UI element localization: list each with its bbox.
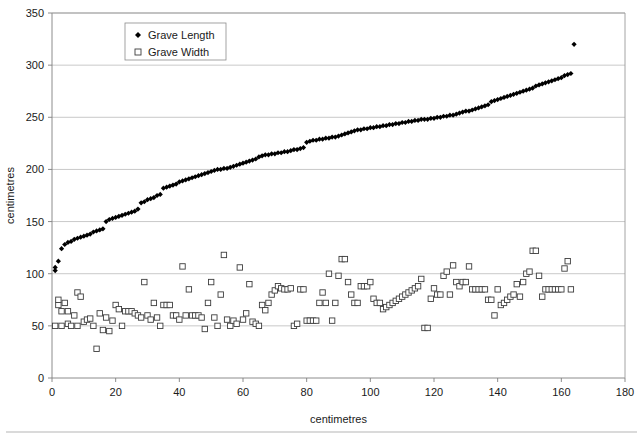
data-point-grave-width (355, 300, 360, 305)
data-point-grave-width (377, 300, 382, 305)
data-point-grave-width (224, 317, 229, 322)
data-point-grave-length (53, 265, 58, 270)
data-point-grave-width (97, 311, 102, 316)
data-point-grave-width (186, 287, 191, 292)
data-point-grave-width (495, 287, 500, 292)
data-point-grave-width (288, 286, 293, 291)
x-tick-label: 180 (616, 386, 634, 398)
data-point-grave-width (540, 294, 545, 299)
data-point-grave-width (59, 323, 64, 328)
data-point-grave-width (489, 297, 494, 302)
x-tick-label: 160 (552, 386, 570, 398)
data-point-grave-width (256, 323, 261, 328)
data-point-grave-width (294, 321, 299, 326)
y-axis-title: centimetres (4, 167, 16, 224)
chart-canvas: 050100150200250300350 020406080100120140… (0, 0, 643, 439)
data-point-grave-width (78, 294, 83, 299)
data-point-grave-width (565, 259, 570, 264)
series-grave-length (53, 42, 577, 273)
y-tick-label: 0 (38, 372, 44, 384)
data-point-grave-width (559, 287, 564, 292)
data-point-grave-width (428, 296, 433, 301)
data-point-grave-width (142, 279, 147, 284)
data-point-grave-width (562, 266, 567, 271)
data-point-grave-width (180, 264, 185, 269)
data-point-grave-width (240, 317, 245, 322)
x-tick-label: 120 (425, 386, 443, 398)
data-point-grave-width (514, 281, 519, 286)
data-point-grave-width (237, 265, 242, 270)
data-point-grave-width (138, 315, 143, 320)
data-point-grave-width (167, 302, 172, 307)
data-point-grave-width (266, 300, 271, 305)
data-point-grave-width (65, 309, 70, 314)
data-point-grave-width (314, 318, 319, 323)
data-point-grave-width (208, 279, 213, 284)
data-point-grave-width (116, 306, 121, 311)
x-tick-label: 0 (49, 386, 55, 398)
data-point-grave-width (52, 323, 57, 328)
data-point-grave-width (320, 290, 325, 295)
data-point-grave-width (568, 287, 573, 292)
x-axis-ticks: 020406080100120140160180 (49, 378, 634, 398)
data-point-grave-width (75, 323, 80, 328)
data-point-grave-width (94, 346, 99, 351)
data-point-grave-width (438, 292, 443, 297)
data-point-grave-width (56, 297, 61, 302)
data-point-grave-width (72, 313, 77, 318)
data-point-grave-width (368, 279, 373, 284)
data-point-grave-width (68, 323, 73, 328)
data-point-grave-width (425, 325, 430, 330)
data-point-grave-width (148, 317, 153, 322)
y-tick-label: 200 (26, 163, 44, 175)
data-point-grave-width (158, 323, 163, 328)
data-point-grave-width (317, 300, 322, 305)
data-point-grave-width (415, 284, 420, 289)
series-grave-width (52, 248, 573, 351)
data-point-grave-width (215, 323, 220, 328)
data-point-grave-width (234, 321, 239, 326)
data-point-grave-width (202, 326, 207, 331)
data-point-grave-width (107, 328, 112, 333)
y-tick-label: 50 (32, 320, 44, 332)
data-point-grave-width (323, 300, 328, 305)
x-tick-label: 140 (488, 386, 506, 398)
data-point-grave-width (221, 252, 226, 257)
data-point-grave-width (62, 300, 67, 305)
x-tick-label: 60 (237, 386, 249, 398)
x-axis-title: centimetres (310, 413, 367, 425)
data-point-grave-width (212, 315, 217, 320)
data-point-grave-width (56, 302, 61, 307)
data-point-grave-width (247, 281, 252, 286)
data-point-grave-width (263, 308, 268, 313)
data-point-grave-width (259, 302, 264, 307)
y-tick-label: 150 (26, 216, 44, 228)
data-point-grave-width (482, 287, 487, 292)
x-tick-label: 80 (301, 386, 313, 398)
data-point-grave-width (199, 315, 204, 320)
data-point-grave-width (431, 286, 436, 291)
data-point-grave-width (333, 300, 338, 305)
data-point-grave-width (520, 279, 525, 284)
x-tick-label: 40 (173, 386, 185, 398)
data-point-grave-length (59, 246, 64, 251)
data-point-grave-width (228, 323, 233, 328)
data-point-grave-width (463, 279, 468, 284)
legend-item-label: Grave Length (148, 29, 215, 41)
data-point-grave-width (329, 318, 334, 323)
data-point-grave-length (571, 42, 576, 47)
data-point-grave-width (177, 317, 182, 322)
data-point-grave-width (91, 323, 96, 328)
legend: Grave LengthGrave Width (125, 23, 226, 60)
data-point-grave-width (533, 248, 538, 253)
data-point-grave-width (154, 315, 159, 320)
data-point-grave-width (536, 273, 541, 278)
data-point-grave-width (527, 269, 532, 274)
data-point-grave-width (466, 264, 471, 269)
data-point-grave-width (511, 292, 516, 297)
data-point-grave-width (492, 313, 497, 318)
y-axis-ticks: 050100150200250300350 (26, 7, 52, 384)
x-tick-label: 100 (361, 386, 379, 398)
y-tick-label: 350 (26, 7, 44, 19)
legend-marker-square-icon (135, 49, 141, 55)
